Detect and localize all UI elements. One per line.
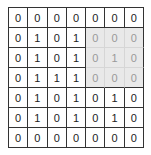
matrix-cell: 0 bbox=[125, 128, 144, 148]
matrix-cell-highlighted: 0 bbox=[86, 48, 105, 68]
matrix-cell: 0 bbox=[48, 48, 67, 68]
matrix-cell: 0 bbox=[48, 28, 67, 48]
matrix-cell: 0 bbox=[105, 8, 124, 28]
matrix-cell: 0 bbox=[86, 128, 105, 148]
matrix-cell: 0 bbox=[67, 8, 86, 28]
matrix-cell: 0 bbox=[9, 48, 28, 68]
matrix-cell: 0 bbox=[48, 8, 67, 28]
matrix-cell: 0 bbox=[9, 28, 28, 48]
matrix-cell: 1 bbox=[28, 28, 47, 48]
matrix-cell: 0 bbox=[48, 128, 67, 148]
matrix-cell: 0 bbox=[125, 108, 144, 128]
matrix-cell: 0 bbox=[28, 8, 47, 28]
matrix-cell: 0 bbox=[125, 88, 144, 108]
matrix-cell: 1 bbox=[105, 108, 124, 128]
matrix-cell-highlighted: 0 bbox=[125, 68, 144, 88]
matrix-cell: 0 bbox=[86, 88, 105, 108]
matrix-cell: 0 bbox=[9, 68, 28, 88]
matrix-cell: 0 bbox=[28, 128, 47, 148]
matrix-cell: 0 bbox=[9, 128, 28, 148]
matrix-cell: 0 bbox=[9, 108, 28, 128]
matrix-cell-highlighted: 0 bbox=[86, 28, 105, 48]
matrix-cell: 0 bbox=[48, 88, 67, 108]
matrix-cell: 1 bbox=[67, 68, 86, 88]
matrix-cell: 1 bbox=[67, 108, 86, 128]
matrix-cell: 1 bbox=[28, 108, 47, 128]
matrix-cell-highlighted: 0 bbox=[105, 28, 124, 48]
matrix-cell: 0 bbox=[9, 8, 28, 28]
matrix-cell: 0 bbox=[86, 108, 105, 128]
matrix-cell: 1 bbox=[67, 88, 86, 108]
matrix-cell: 1 bbox=[28, 88, 47, 108]
matrix-cell: 0 bbox=[67, 128, 86, 148]
matrix-cell: 0 bbox=[86, 8, 105, 28]
matrix-cell-highlighted: 0 bbox=[125, 28, 144, 48]
matrix-cell: 0 bbox=[48, 108, 67, 128]
matrix-cell: 1 bbox=[105, 88, 124, 108]
matrix-cell-highlighted: 0 bbox=[125, 48, 144, 68]
matrix-cell: 1 bbox=[48, 68, 67, 88]
binary-matrix-grid: 0000000010100001010100111000010101001010… bbox=[8, 7, 144, 148]
matrix-cell: 1 bbox=[28, 68, 47, 88]
matrix-cell-highlighted: 1 bbox=[105, 48, 124, 68]
matrix-cell: 1 bbox=[28, 48, 47, 68]
matrix-cell-highlighted: 0 bbox=[86, 68, 105, 88]
matrix-cell: 0 bbox=[105, 128, 124, 148]
matrix-cell: 1 bbox=[67, 48, 86, 68]
matrix-cell: 1 bbox=[67, 28, 86, 48]
matrix-cell: 0 bbox=[125, 8, 144, 28]
matrix-cell: 0 bbox=[9, 88, 28, 108]
matrix-cell-highlighted: 0 bbox=[105, 68, 124, 88]
